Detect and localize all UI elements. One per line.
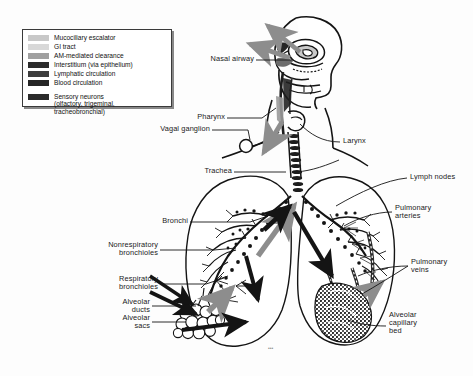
label-nasal-airway: Nasal airway <box>196 55 254 63</box>
legend-label: Blood circulation <box>54 79 102 87</box>
legend-sensory-line3: tracheobronchial) <box>54 108 105 115</box>
legend-item: Interstitium (via epithelium) <box>28 61 171 70</box>
label-larynx: Larynx <box>343 137 393 145</box>
label-pulmonary-arteries: Pulmonary arteries <box>395 204 455 220</box>
label-nonrespiratory-bronchioles: Nonrespiratory bronchioles <box>96 241 158 257</box>
label-alveolar-sacs: Alveolar sacs <box>104 314 150 330</box>
label-resp-l2: bronchioles <box>119 282 158 291</box>
legend-label: Mucociliary escalator <box>54 34 116 42</box>
trachea-structure <box>288 132 303 192</box>
artist-signature: ••• <box>268 345 274 351</box>
legend-swatch <box>28 71 49 77</box>
legend-item: Lymphatic circulation <box>28 70 171 79</box>
legend-sensory-line2: (olfactory, trigeminal, <box>54 100 115 107</box>
legend-swatch <box>28 62 49 68</box>
label-nonresp-l2: bronchioles <box>119 248 158 257</box>
label-trachea: Trachea <box>182 167 232 175</box>
legend-swatch <box>28 35 49 41</box>
label-alveolar-capillary-bed: Alveolar capillary bed <box>389 311 445 336</box>
legend-label: Interstitium (via epithelium) <box>54 61 133 69</box>
label-respiratory-bronchioles: Respiratory bronchioles <box>100 275 158 291</box>
label-alveolar-sacs-l2: sacs <box>134 321 150 330</box>
label-vagal-ganglion: Vagal ganglion <box>147 125 210 133</box>
legend-item: AM-mediated clearance <box>28 52 171 61</box>
legend-label: GI tract <box>54 43 76 51</box>
label-bronchi: Bronchi <box>142 217 188 225</box>
diagram-canvas: ••• Mucociliary escalator GI tract AM-me… <box>0 0 473 376</box>
label-pharynx: Pharynx <box>175 113 225 121</box>
label-pulmonary-arteries-l2: arteries <box>395 211 420 220</box>
legend-label-sensory: Sensory neurons(olfactory, trigeminal,tr… <box>54 93 115 115</box>
legend-label: Lymphatic circulation <box>54 70 115 78</box>
label-lymph-nodes: Lymph nodes <box>410 173 472 181</box>
label-pulmonary-veins-l2: veins <box>411 265 429 274</box>
legend-label: AM-mediated clearance <box>54 52 124 60</box>
legend-box: Mucociliary escalator GI tract AM-mediat… <box>22 29 172 107</box>
legend-swatch <box>28 44 49 50</box>
legend-swatch <box>28 80 49 86</box>
legend-item: Blood circulation <box>28 79 171 88</box>
legend-sensory-line1: Sensory neurons <box>54 93 104 100</box>
legend-item: GI tract <box>28 43 171 52</box>
label-alveolar-ducts: Alveolar ducts <box>104 298 150 314</box>
legend-swatch <box>28 53 49 59</box>
legend-item-sensory: Sensory neurons(olfactory, trigeminal,tr… <box>28 93 171 115</box>
label-alveolar-cap-l3: bed <box>389 326 402 335</box>
legend-swatch <box>28 94 49 100</box>
legend-item: Mucociliary escalator <box>28 34 171 43</box>
label-pulmonary-veins: Pulmonary veins <box>411 258 467 274</box>
